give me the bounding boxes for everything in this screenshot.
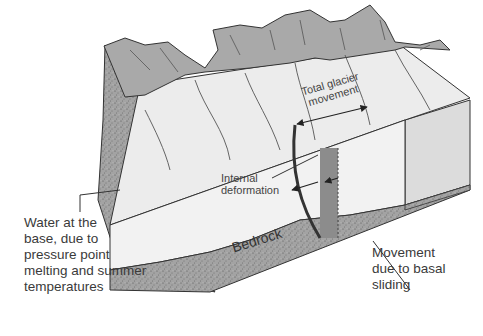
water-at-base-label: Water at the base, due to pressure point… bbox=[24, 215, 146, 295]
internal-deformation-label: Internal deformation bbox=[221, 172, 279, 196]
basal-sliding-label: Movement due to basal sliding bbox=[372, 245, 446, 293]
basal-sliding-band bbox=[320, 148, 338, 238]
